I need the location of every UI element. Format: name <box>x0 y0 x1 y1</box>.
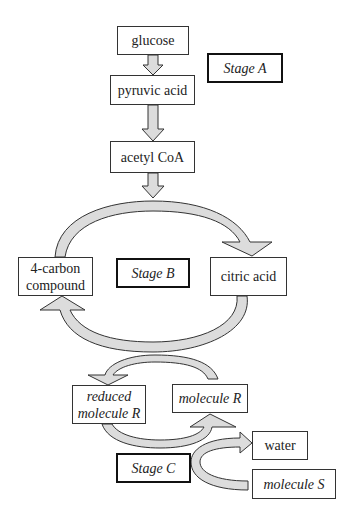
label-glucose: glucose <box>132 32 175 49</box>
box-reduced-molecule-r: reduced molecule R <box>72 385 146 424</box>
box-molecule-s: molecule S <box>252 469 336 499</box>
arrow-r-to-reduced <box>88 355 218 385</box>
arrow-cycle-top <box>55 201 272 257</box>
arrow-acetyl-to-cycle <box>142 173 164 198</box>
arrow-glucose-to-pyruvic <box>143 55 163 75</box>
box-molecule-r: molecule R <box>172 384 248 413</box>
stage-b-label: Stage B <box>116 258 190 288</box>
box-pyruvic-acid: pyruvic acid <box>110 75 195 105</box>
arrow-cycle-bottom <box>40 296 247 352</box>
box-glucose: glucose <box>117 26 189 55</box>
box-4-carbon-compound: 4-carbon compound <box>18 257 93 296</box>
stage-a-label: Stage A <box>207 53 283 83</box>
box-water: water <box>252 431 308 460</box>
box-acetyl-coa: acetyl CoA <box>110 141 195 173</box>
arrow-pyruvic-to-acetyl <box>142 105 164 141</box>
box-citric-acid: citric acid <box>210 257 287 296</box>
stage-c-label: Stage C <box>116 453 191 483</box>
